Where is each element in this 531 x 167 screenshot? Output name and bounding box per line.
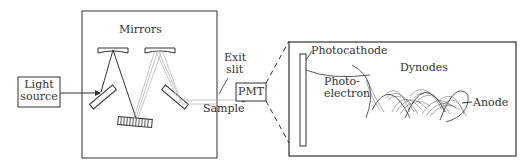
anode-label: Anode xyxy=(473,97,508,109)
diagram-canvas xyxy=(0,0,531,167)
anode-leader xyxy=(462,102,472,103)
zoom-line-bottom xyxy=(266,101,289,143)
photocathode-label: Photocathode xyxy=(311,45,388,57)
zoom-line-top xyxy=(266,41,289,83)
exit-slit-leader xyxy=(219,78,228,94)
pmt-label: PMT xyxy=(236,86,266,98)
grating-icon xyxy=(118,117,153,128)
exit-slit-line2: slit xyxy=(224,64,246,76)
photoelectron-label: Photo- electron xyxy=(324,76,370,100)
mirror-right-icon xyxy=(145,48,175,53)
mirrors-label: Mirrors xyxy=(119,24,162,36)
dynodes-label: Dynodes xyxy=(400,62,448,74)
photoelectron-line2: electron xyxy=(324,88,370,100)
light-source-label: Light source xyxy=(18,79,60,103)
plane-mirror-left-icon xyxy=(90,85,117,109)
fluorescence-spectrometer-diagram: Light source Mirrors Exit slit Sample PM… xyxy=(0,0,531,167)
exit-slit-label: Exit slit xyxy=(224,52,246,76)
photocathode-icon xyxy=(300,54,306,146)
light-path-dark xyxy=(101,50,136,118)
sample-label: Sample xyxy=(203,103,245,115)
light-source-line2: source xyxy=(18,91,60,103)
